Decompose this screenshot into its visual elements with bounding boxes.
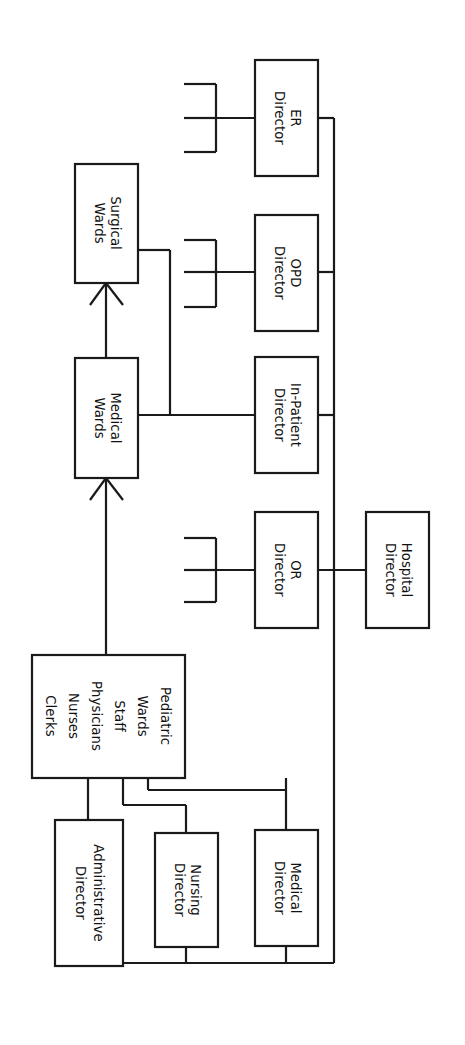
node-administrative-director[interactable]: Administrative Director [55, 820, 123, 966]
node-hospital-director-line-0: Hospital [399, 543, 414, 598]
node-pediatric-line-0: Pediatric [158, 687, 173, 745]
node-opd-director-line-1: Director [272, 246, 287, 300]
node-in-patient-director-line-0: In-Patient [288, 383, 303, 447]
node-pediatric-line-3: Physicians [89, 681, 104, 751]
node-administrative-director-box[interactable] [55, 820, 123, 966]
node-er-director-line-0: ER [288, 109, 303, 127]
node-pediatric-line-4: Nurses [66, 693, 81, 739]
org-chart-canvas: ER Director OPD Director In-Patient Dire… [0, 0, 465, 1045]
node-or-director[interactable]: OR Director [255, 512, 318, 628]
node-hospital-director-line-1: Director [383, 543, 398, 597]
node-medical-director[interactable]: Medical Director [255, 830, 318, 946]
node-nursing-director[interactable]: Nursing Director [155, 833, 218, 947]
org-chart-svg: ER Director OPD Director In-Patient Dire… [0, 0, 465, 1045]
node-surgical-wards-line-1: Wards [92, 202, 107, 243]
node-medical-director-line-0: Medical [288, 862, 303, 913]
node-surgical-wards[interactable]: Surgical Wards [75, 164, 138, 283]
node-administrative-director-line-0: Administrative [91, 844, 106, 941]
node-medical-wards-line-0: Medical [108, 392, 123, 443]
node-pediatric-wards-staff[interactable]: Pediatric Wards Staff Physicians Nurses … [32, 655, 185, 778]
node-nursing-director-line-1: Director [172, 863, 187, 917]
node-pediatric-line-1: Wards [135, 695, 150, 736]
node-in-patient-director-line-1: Director [272, 388, 287, 442]
node-medical-director-line-1: Director [272, 861, 287, 915]
node-opd-director[interactable]: OPD Director [255, 215, 318, 331]
node-hospital-director[interactable]: Hospital Director [366, 512, 429, 628]
node-pediatric-line-5: Clerks [43, 695, 58, 737]
node-pediatric-line-2: Staff [112, 700, 127, 732]
node-er-director[interactable]: ER Director [255, 60, 318, 176]
node-medical-wards[interactable]: Medical Wards [75, 358, 138, 478]
node-nursing-director-line-0: Nursing [188, 864, 203, 916]
node-in-patient-director[interactable]: In-Patient Director [255, 357, 318, 473]
node-medical-wards-line-1: Wards [92, 397, 107, 438]
node-surgical-wards-line-0: Surgical [108, 196, 123, 250]
node-opd-director-line-0: OPD [288, 259, 303, 288]
node-or-director-line-0: OR [288, 560, 303, 580]
node-er-director-line-1: Director [272, 91, 287, 145]
node-or-director-line-1: Director [272, 543, 287, 597]
node-administrative-director-line-1: Director [73, 866, 88, 920]
